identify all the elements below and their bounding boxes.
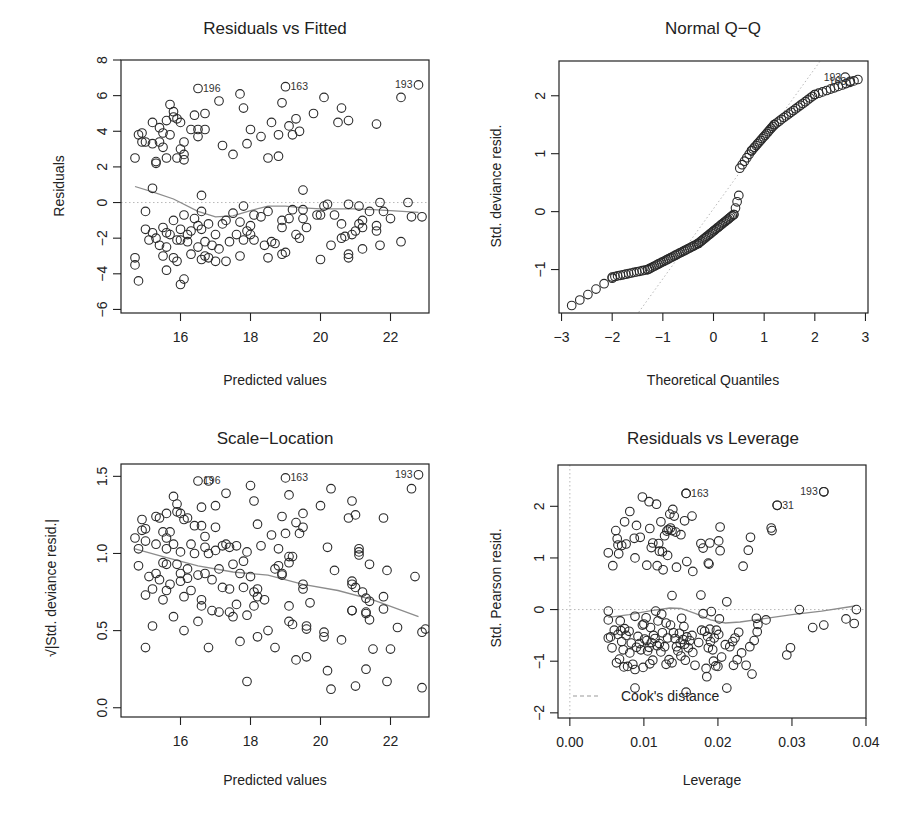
data-point [264,253,273,262]
data-point [567,301,576,310]
data-point [689,567,698,576]
data-point [162,154,171,163]
data-point [232,600,241,609]
data-point [302,223,311,232]
data-point [197,602,206,611]
data-point [393,623,402,632]
x-tick-label: 0 [710,329,718,345]
data-point [327,241,336,250]
data-point [600,279,609,288]
data-point [737,649,746,658]
data-point [404,198,413,207]
data-point [236,90,245,99]
data-point [169,216,178,225]
data-point [246,481,255,490]
data-point [808,623,817,632]
data-point [201,109,210,118]
data-point [225,237,234,246]
plot-scale-location: Scale−Location Predicted values √|Std. d… [0,408,453,816]
data-point [614,550,623,559]
data-point [197,191,206,200]
plot-residuals-vs-fitted: Residuals vs Fitted Predicted values Res… [0,0,453,408]
y-axis-label: Std. deviance resid. [488,125,504,248]
data-point [211,257,220,266]
data-point [652,500,661,509]
data-point [337,104,346,113]
data-point [697,591,706,600]
data-point [683,557,692,566]
data-point [162,266,171,275]
data-point [134,562,143,571]
x-axis-label: Predicted values [223,372,327,388]
data-point [194,84,203,93]
data-point [348,497,357,506]
data-point [169,253,178,262]
data-point [274,545,283,554]
data-point [323,543,332,552]
data-point [716,523,725,532]
chart-title: Scale−Location [217,429,334,448]
x-tick-label: 0.03 [778,734,805,750]
data-point [260,596,269,605]
data-point [271,643,280,652]
data-point [820,621,829,630]
data-point [379,605,388,614]
data-point [748,670,757,679]
data-point [659,566,668,575]
y-tick-label: 0 [532,208,548,216]
x-tick-label: 18 [243,329,259,345]
data-point [309,109,318,118]
data-point [243,548,252,557]
data-point [746,642,755,651]
data-point [379,514,388,523]
data-point [211,230,220,239]
data-point [204,643,213,652]
y-tick-label: −4 [94,266,110,282]
data-point [257,542,266,551]
data-point [190,549,199,558]
data-point [141,537,150,546]
data-point [344,116,353,125]
y-tick-label: 1.0 [94,544,110,564]
y-tick-label: −6 [94,301,110,317]
data-point [239,202,248,211]
data-point [194,221,203,230]
point-label: 31 [782,499,794,511]
x-tick-label: −2 [604,329,620,345]
data-point [141,643,150,652]
data-point [264,207,273,216]
data-point [407,213,416,222]
data-point [285,491,294,500]
point-label: 163 [291,471,309,483]
plot-area: 19616319316182022−6−4−202468 [94,56,429,345]
data-point [141,207,150,216]
x-tick-label: 0.02 [704,734,731,750]
chart-title: Normal Q−Q [665,19,761,38]
data-point [197,503,206,512]
data-point [330,211,339,220]
data-point [351,511,360,520]
y-tick-label: −1 [532,261,548,277]
data-point [316,501,325,510]
data-point [299,509,308,518]
data-point [253,633,262,642]
data-point [786,644,795,653]
data-point [253,520,262,529]
data-point [152,540,161,549]
data-point [302,653,311,662]
data-point [180,626,189,635]
data-point [694,638,703,647]
x-tick-label: 20 [313,329,329,345]
data-point [330,566,339,575]
data-point [281,529,290,538]
data-point [295,127,304,136]
x-tick-label: 18 [243,733,259,749]
point-label: 196 [203,474,221,486]
data-point [744,546,753,555]
data-point [707,607,716,616]
data-point [344,200,353,209]
data-point [376,198,385,207]
data-point [418,213,427,222]
y-tick-label: −2 [531,705,547,721]
y-tick-label: 0.5 [94,621,110,641]
